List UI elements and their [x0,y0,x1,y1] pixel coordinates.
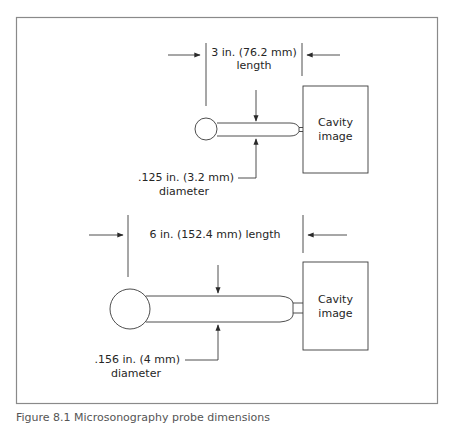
top-length-label-line2: length [208,59,300,72]
bottom-cavity-label-line1: Cavity [303,293,368,306]
bottom-diameter-label-line1: .156 in. (4 mm) [88,353,180,366]
top-probe-shaft [217,123,299,136]
top-cavity-label-line1: Cavity [303,116,368,129]
figure-caption: Figure 8.1 Microsonography probe dimensi… [16,411,270,424]
bottom-diameter-label-line2: diameter [90,367,182,380]
bottom-probe-tip [110,289,150,329]
bottom-cavity-label-line2: image [303,307,368,320]
top-cavity-label-line2: image [303,130,368,143]
top-probe-tip [195,118,217,140]
bottom-diameter-up-arrow-icon [185,325,218,360]
top-diameter-label-line1: .125 in. (3.2 mm) [134,171,234,184]
top-diameter-up-arrow-icon [238,139,256,178]
bottom-length-label: 6 in. (152.4 mm) length [140,228,290,241]
bottom-probe-shaft [146,296,293,322]
top-length-label-line1: 3 in. (76.2 mm) [208,46,300,59]
bottom-cavity-image-box [303,262,368,350]
top-diameter-label-line2: diameter [134,185,234,198]
figure-frame [17,18,438,404]
